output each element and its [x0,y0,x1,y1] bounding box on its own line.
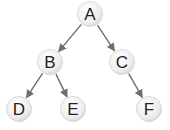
node-label: A [84,5,96,24]
node-F: F [137,97,162,122]
node-D: D [7,97,32,122]
node-label: F [144,100,154,119]
node-E: E [61,97,86,122]
node-label: C [116,53,128,72]
node-label: B [44,53,55,72]
node-C: C [110,50,135,75]
edge-A-C-arrow-icon [97,25,114,51]
node-label: E [67,100,78,119]
edge-C-F-arrow-icon [129,74,143,98]
node-A: A [78,2,103,27]
node-B: B [38,50,63,75]
edge-A-B-arrow-icon [59,24,82,51]
node-label: D [13,100,25,119]
tree-diagram: ABCDEF [0,0,170,130]
nodes: ABCDEF [7,2,162,122]
edge-B-D-arrow-icon [26,73,42,97]
edge-B-E-arrow-icon [56,74,67,97]
